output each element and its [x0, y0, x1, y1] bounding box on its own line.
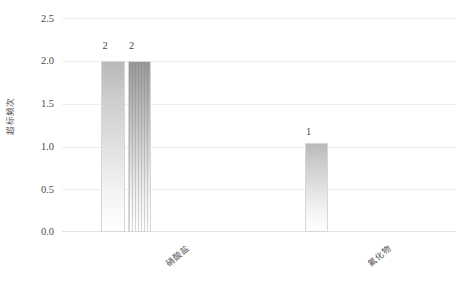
y-tick-label: 1.5	[41, 99, 54, 109]
gridline-2-5	[62, 18, 456, 19]
y-tick-label: 2.0	[41, 56, 54, 66]
y-tick-label: 0.0	[41, 227, 54, 237]
x-category-label-nitrate: 硝酸盐	[43, 241, 192, 282]
bar-nitrate-series-1[interactable]	[101, 61, 125, 232]
y-axis-tick-labels: 2.5 2.0 1.5 1.0 0.5 0.0	[18, 0, 60, 240]
bar-value-label: 2	[120, 40, 143, 51]
y-axis-title: 超标频次	[0, 0, 18, 232]
y-axis-title-text: 超标频次	[3, 97, 15, 135]
bar-nitrate-series-2[interactable]	[128, 61, 151, 232]
y-tick-label: 1.0	[41, 142, 54, 152]
y-tick-label: 0.5	[41, 185, 54, 195]
bar-value-label: 2	[93, 40, 117, 51]
bar-value-label: 1	[297, 126, 320, 137]
bar-chart: 超标频次 2.5 2.0 1.5 1.0 0.5 0.0 2 2 1 硝酸盐 氟…	[0, 0, 462, 282]
y-tick-label: 2.5	[41, 14, 54, 24]
bar-fluoride-series-1[interactable]	[305, 143, 328, 232]
x-category-label-fluoride: 氟化物	[244, 241, 394, 282]
